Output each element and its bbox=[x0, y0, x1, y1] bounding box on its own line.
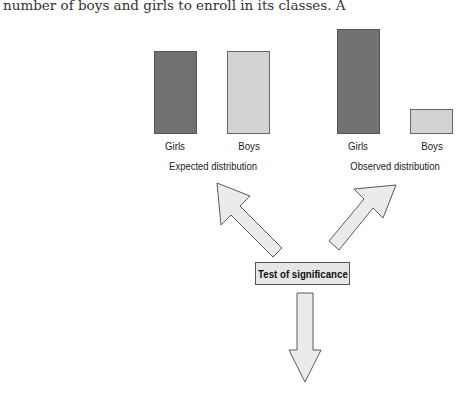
arrow-up-left-icon bbox=[217, 183, 282, 257]
test-of-significance-box: Test of significance bbox=[255, 262, 350, 285]
arrow-down-icon bbox=[289, 293, 321, 382]
arrow-up-right-icon bbox=[329, 185, 396, 250]
diagram-arrows bbox=[0, 0, 474, 398]
